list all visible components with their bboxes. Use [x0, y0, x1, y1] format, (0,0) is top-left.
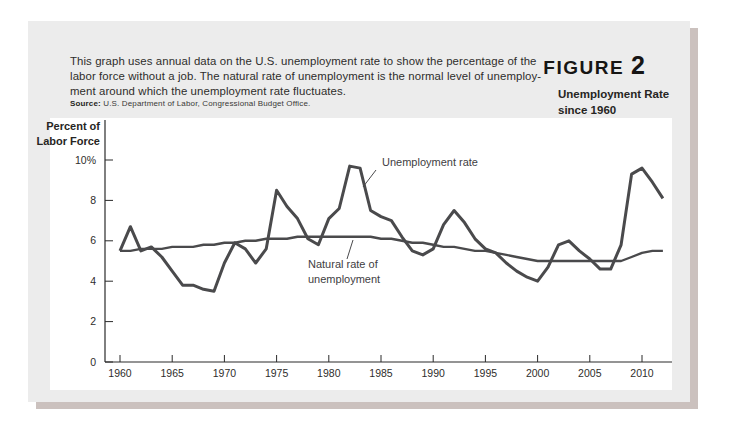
figure-title: Unemployment Rate since 1960 [558, 87, 708, 118]
y-tick-label: 8 [90, 194, 96, 206]
source-label: Source: [70, 99, 101, 108]
unemployment-rate-line [120, 166, 663, 291]
series-annotation: Natural rate of [308, 258, 379, 270]
x-tick-label: 1965 [161, 367, 185, 379]
annotation-pointer [347, 240, 353, 259]
x-tick-label: 1985 [369, 367, 393, 379]
natural-rate-line [120, 237, 663, 261]
figure-description: This graph uses annual data on the U.S. … [70, 54, 556, 99]
y-axis-label: Percent of Labor Force [30, 119, 100, 148]
y-axis-label-line1: Percent of [30, 119, 100, 134]
description-line: labor force without a job. The natural r… [70, 69, 556, 84]
chart-svg: 0246810%19601965197019751980198519901995… [50, 118, 672, 390]
source-line: Source: U.S. Department of Labor, Congre… [70, 99, 490, 108]
series-annotation: Unemployment rate [382, 156, 478, 168]
figure-title-line2: since 1960 [558, 103, 708, 119]
y-axis-label-line2: Labor Force [30, 134, 100, 149]
x-tick-label: 2000 [526, 367, 550, 379]
x-tick-label: 2005 [578, 367, 602, 379]
y-tick-label: 6 [90, 234, 96, 246]
description-line: This graph uses annual data on the U.S. … [70, 54, 556, 69]
figure-heading: FIGURE2 [543, 51, 645, 80]
page: { "figure": { "label": "FIGURE", "number… [0, 0, 730, 433]
y-tick-label: 4 [90, 275, 96, 287]
x-tick-label: 1960 [108, 367, 132, 379]
x-tick-label: 1995 [474, 367, 498, 379]
figure-number: 2 [631, 51, 645, 79]
series-annotation: unemployment [308, 273, 380, 285]
figure-title-line1: Unemployment Rate [558, 87, 708, 103]
x-tick-label: 2010 [630, 367, 654, 379]
description-line: ment around which the unemployment rate … [70, 84, 556, 99]
source-text: U.S. Department of Labor, Congressional … [103, 99, 310, 108]
x-tick-label: 1970 [213, 367, 237, 379]
x-tick-label: 1980 [317, 367, 341, 379]
figure-label: FIGURE [543, 57, 624, 78]
chart-area: 0246810%19601965197019751980198519901995… [50, 118, 672, 390]
x-tick-label: 1975 [265, 367, 289, 379]
y-tick-label: 10% [75, 154, 96, 166]
y-tick-label: 2 [90, 315, 96, 327]
x-tick-label: 1990 [422, 367, 446, 379]
y-tick-label: 0 [90, 356, 96, 368]
annotation-pointer [363, 170, 376, 187]
